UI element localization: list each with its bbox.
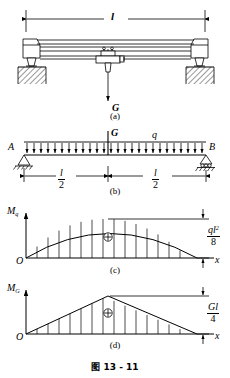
distributed-load-label-q: q bbox=[152, 130, 157, 140]
positive-sign-c bbox=[104, 233, 112, 241]
point-load-label-G-b: G bbox=[111, 128, 118, 138]
max-d-num: Gl bbox=[207, 302, 219, 314]
part-label-c: (c) bbox=[0, 265, 230, 275]
part-label-a: (a) bbox=[0, 111, 230, 121]
pin-support-A bbox=[14, 155, 34, 170]
axis-label-Mq-sub: q bbox=[15, 210, 18, 217]
max-value-leader-c bbox=[108, 209, 209, 268]
dim-left-num: l bbox=[58, 168, 65, 180]
diagram-d-MG bbox=[26, 287, 214, 344]
axis-label-MG-sub: G bbox=[15, 287, 19, 294]
positive-sign-d bbox=[104, 309, 112, 317]
half-span-dimensions bbox=[24, 166, 206, 182]
diagram-c-Mq bbox=[26, 209, 214, 268]
diagram-a-crane bbox=[18, 10, 214, 101]
ground-support-left bbox=[18, 67, 46, 84]
axis-label-MG: MG bbox=[7, 283, 20, 294]
axis-label-Mq: Mq bbox=[7, 206, 18, 217]
trolley-hoist bbox=[96, 47, 124, 82]
part-label-d: (d) bbox=[0, 340, 230, 350]
roller-support-B bbox=[196, 155, 216, 171]
support-label-B: B bbox=[209, 142, 215, 152]
figure-caption: 图 13 - 11 bbox=[0, 360, 230, 373]
ground-support-right bbox=[186, 67, 214, 84]
diagram-b-beam bbox=[14, 131, 216, 182]
left-end-bracket bbox=[23, 39, 40, 66]
span-label-a: l bbox=[111, 11, 114, 22]
dim-right-num: l bbox=[152, 168, 159, 180]
max-moment-label-d: Gl 4 bbox=[207, 302, 219, 324]
part-label-b: (b) bbox=[0, 186, 230, 196]
max-d-den: 4 bbox=[207, 314, 219, 325]
span-dimension-a bbox=[26, 10, 205, 32]
right-end-bracket bbox=[191, 39, 208, 66]
distributed-load-arrows bbox=[27, 143, 202, 153]
max-c-den: 8 bbox=[207, 237, 220, 248]
support-label-A: A bbox=[8, 142, 14, 152]
max-moment-label-c: ql2 8 bbox=[207, 225, 220, 247]
axis-x-label-c: x bbox=[215, 255, 219, 265]
max-c-num: ql2 bbox=[207, 225, 220, 237]
